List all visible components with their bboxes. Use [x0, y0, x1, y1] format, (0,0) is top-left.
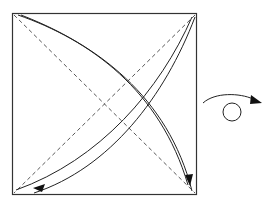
origami-diagram [0, 0, 270, 207]
diagram-canvas [0, 0, 270, 207]
turn-over-icon [203, 95, 262, 121]
